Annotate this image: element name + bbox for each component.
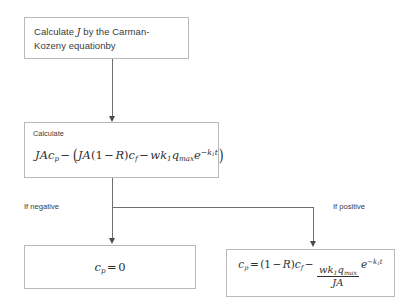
connector-branch-horizontal [112,207,314,208]
branch-label-negative: If negative [24,202,59,211]
arrowhead-to-cpfull [310,241,316,247]
carman-kozeny-line2: Kozeny equationby [34,40,116,51]
cpz-equals: = [106,260,119,274]
exp-t: t [215,148,218,157]
cp-zero-equation: cp=0 [95,260,126,275]
cpf-num-w: w [319,264,328,275]
cpf-denominator: JA [317,276,359,288]
term-A: A [40,148,48,162]
term-one: 1 [95,148,102,162]
paren-close: ) [219,146,224,165]
cpz-c-sub-p: p [101,265,106,274]
cpf-fraction: wk1qmaxJA [317,265,359,289]
cpf-one: 1 [264,258,271,270]
term-A2: A [83,148,91,162]
cpf-minus-1: − [271,258,283,270]
paren-open: ( [72,146,77,165]
connector-top-to-calculate [112,59,113,117]
exponent-group: −k1t [201,148,218,157]
cpf-exp-t: t [380,258,383,266]
cpf-equals: = [248,258,260,270]
term-w: w [150,148,160,162]
cp-full-equation: cp=(1−R)cf−wk1qmaxJAe−k1t [238,258,382,288]
cpf-exponent-group: −k1t [367,258,383,266]
cpf-num-q-sub-max: max [344,268,357,275]
cpf-numerator: wk1qmax [317,265,359,277]
operator-minus: − [59,148,72,162]
cpf-R: R [283,258,291,270]
operator-minus-3b: − [138,148,151,162]
node-cp-zero: cp=0 [24,245,196,289]
calculate-equation: JAcp−(JA(1−R)cfw−wk1qmaxe−k1t) [33,146,210,165]
cp-full-row: cp=(1−R)cf−wk1qmaxJAe−k1t [227,250,394,296]
calculate-label: Calculate [33,129,210,139]
node-calculate: Calculate JAcp−(JA(1−R)cfw−wk1qmaxe−k1t) [24,122,219,178]
flowchart-canvas: Calculate J by the Carman- Kozeny equati… [0,0,412,307]
operator-minus-2: − [103,148,116,162]
cpz-zero: 0 [118,260,125,274]
node-carman-kozeny: Calculate J by the Carman- Kozeny equati… [24,17,189,59]
carman-kozeny-line1-pre: Calculate [34,26,77,37]
connector-calculate-to-cpzero [112,178,113,238]
carman-kozeny-text: Calculate J by the Carman- Kozeny equati… [34,25,179,52]
term-q-sub-max: max [179,154,194,163]
node-cp-full: cp=(1−R)cf−wk1qmaxJAe−k1t [226,249,395,297]
cpf-minus-2: − [303,258,315,270]
carman-kozeny-line1-post: by the Carman- [81,26,150,37]
cp-zero-row: cp=0 [25,246,195,288]
term-q: q [172,148,179,162]
arrowhead-to-cpzero [109,238,115,244]
term-R: R [115,148,124,162]
term-e: e [194,148,201,162]
cpf-den-A: A [336,277,343,288]
connector-branch-to-cpfull [313,207,314,242]
branch-label-positive: If positive [333,202,365,211]
